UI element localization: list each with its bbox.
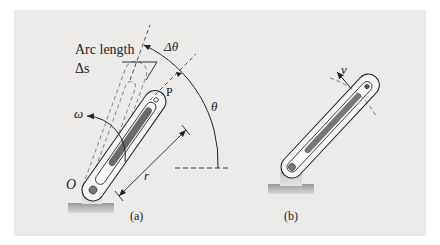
delta-s-label: Δs [75, 62, 89, 76]
point-p-label: P [166, 86, 173, 98]
ground-support [68, 203, 114, 213]
delta-theta-label: Δθ [164, 40, 178, 53]
radial-line-p [150, 54, 196, 100]
origin-label: O [66, 178, 76, 192]
arc-length-bracket [122, 62, 157, 80]
omega-label: ω [74, 107, 83, 120]
theta-arrowhead [176, 72, 182, 77]
radius-label: r [144, 169, 149, 182]
caption-a: (a) [130, 210, 143, 222]
diagram-canvas [0, 0, 440, 245]
velocity-label: v [341, 63, 347, 76]
arc-length-label: Arc length [75, 43, 134, 57]
panel-b [268, 70, 384, 194]
caption-b: (b) [284, 210, 298, 222]
theta-label: θ [211, 100, 217, 113]
rotating-arm [276, 70, 383, 183]
